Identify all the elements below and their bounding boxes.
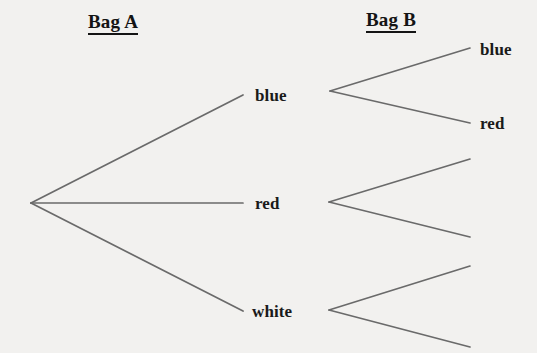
- branch-root-to-blue: [31, 95, 243, 203]
- node-label-bag-a-red: red: [255, 195, 280, 212]
- branch-blue-to-red: [330, 91, 470, 123]
- branch-blue-to-blue: [330, 48, 470, 91]
- branch-white-to-lower: [329, 310, 470, 347]
- branch-white-to-upper: [329, 266, 470, 310]
- node-label-bag-a-white: white: [252, 303, 292, 320]
- branch-red-to-upper: [329, 159, 470, 202]
- branch-red-to-lower: [329, 202, 470, 237]
- node-label-bag-a-blue: blue: [255, 87, 287, 104]
- stage-heading-bag-b: Bag B: [366, 10, 416, 33]
- stage-heading-bag-a: Bag A: [88, 12, 138, 35]
- tree-branches-svg: [0, 0, 537, 353]
- tree-diagram-canvas: Bag A Bag B blue red white blue red: [0, 0, 537, 353]
- node-label-bag-b-blue: blue: [480, 41, 512, 58]
- branch-lines-group: [31, 48, 470, 347]
- node-label-bag-b-red: red: [480, 115, 505, 132]
- branch-root-to-white: [31, 203, 243, 311]
